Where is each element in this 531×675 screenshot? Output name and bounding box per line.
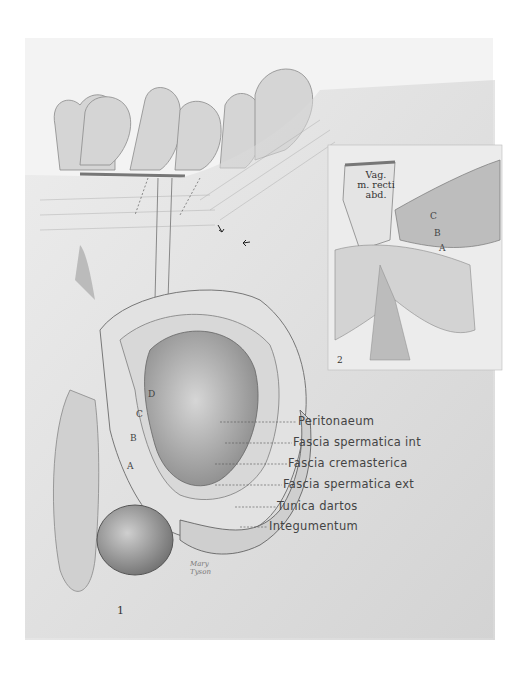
layer-letter-b: B (130, 434, 137, 443)
label-fascia-spermatica-ext: Fascia spermatica ext (283, 479, 414, 491)
label-fascia-cremasterica: Fascia cremasterica (288, 458, 408, 470)
label-tunica-dartos: Tunica dartos (277, 501, 358, 513)
inset-figure-number: 2 (337, 355, 343, 365)
label-integumentum: Integumentum (269, 521, 358, 533)
layer-letter-c: C (136, 410, 143, 419)
anatomical-illustration (0, 0, 531, 675)
signature-line-2: Tyson (190, 568, 211, 576)
label-fascia-spermatica-int: Fascia spermatica int (293, 437, 421, 449)
inset-caption-line-3: abd. (356, 190, 396, 200)
left-thigh (53, 390, 98, 591)
signature-line-1: Mary (190, 560, 211, 568)
inset-letter-c: C (430, 212, 437, 221)
artist-signature: Mary Tyson (190, 560, 211, 576)
inset-letter-a: A (439, 244, 446, 253)
scrotal-sac (97, 505, 173, 575)
main-figure-number: 1 (117, 604, 124, 617)
inset-caption: Vag. m. recti abd. (356, 170, 396, 200)
layer-letter-d: D (148, 390, 155, 399)
inset-letter-b: B (434, 229, 441, 238)
label-peritonaeum: Peritonaeum (298, 416, 374, 428)
layer-letter-a: A (127, 462, 134, 471)
